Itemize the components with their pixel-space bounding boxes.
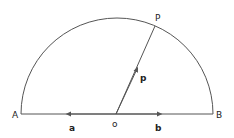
point-label-P: P [155, 13, 161, 23]
point-label-A: A [12, 110, 19, 120]
vector-label-b: b [155, 123, 162, 133]
vector-p-arrow [116, 69, 137, 114]
point-label-B: B [216, 110, 222, 120]
vector-label-p: p [140, 73, 147, 83]
point-label-O: o [112, 119, 118, 129]
semicircle-arc [21, 18, 213, 114]
semicircle-diagram: A B o P a b p [0, 0, 234, 138]
vector-label-a: a [69, 123, 75, 133]
